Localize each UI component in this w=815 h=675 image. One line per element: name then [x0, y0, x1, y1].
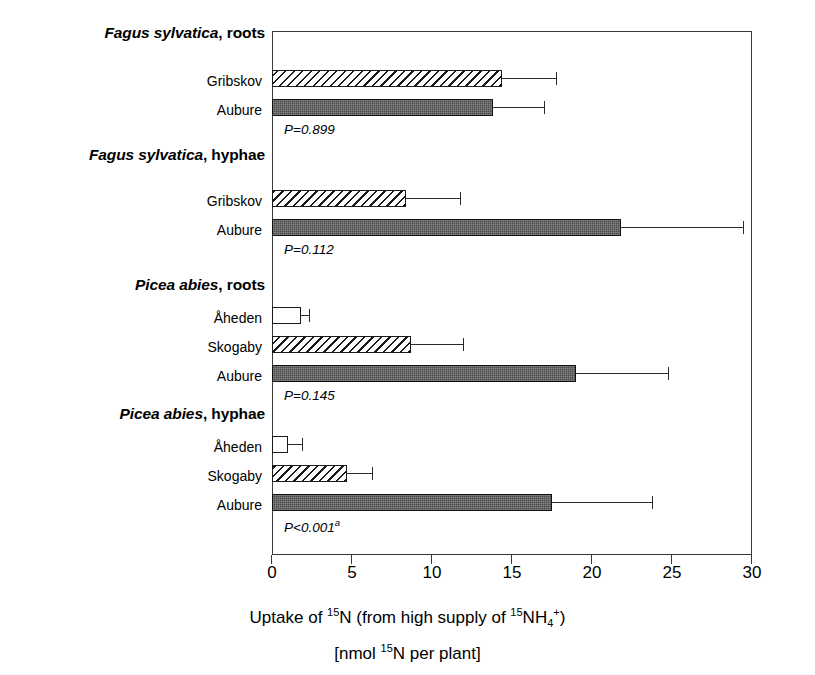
caption-nh-subscript: 4 — [547, 617, 553, 629]
caption-isotope-2: 15 — [510, 606, 522, 618]
group-header-3: Picea abies, hyphae — [15, 405, 265, 423]
p-value-text-g1: P=0.112 — [284, 242, 334, 257]
group-header-part-1: , hyphae — [203, 146, 265, 163]
site-label-g2-b1: Skogaby — [62, 340, 262, 354]
caption-supply-text: N (from high supply of — [339, 608, 510, 627]
x-tick-label-2: 10 — [412, 563, 452, 583]
axis-caption-line-2: [nmol 15N per plant] — [0, 636, 815, 666]
errorcap-g2-b2 — [668, 367, 669, 380]
axis-caption-line-1: Uptake of 15N (from high supply of 15NH4… — [0, 600, 815, 636]
errorbar-g1-b1 — [621, 227, 744, 228]
errorbar-g3-b2 — [552, 502, 653, 503]
bar-g1-b1 — [272, 219, 621, 236]
site-label-g0-b1: Aubure — [62, 103, 262, 117]
group-header-part-2: , roots — [218, 276, 265, 293]
errorbar-g2-b2 — [576, 373, 669, 374]
errorbar-g3-b0 — [288, 444, 303, 445]
p-value-g2: P=0.145 — [284, 388, 335, 403]
x-tick-label-5: 25 — [652, 563, 692, 583]
site-label-g3-b1: Skogaby — [62, 469, 262, 483]
group-header-species-2: Picea abies — [135, 276, 218, 293]
bar-g3-b2 — [272, 494, 552, 511]
p-value-g1: P=0.112 — [284, 242, 334, 257]
errorbar-g2-b1 — [411, 344, 464, 345]
group-header-species-3: Picea abies — [120, 405, 203, 422]
errorcap-g3-b0 — [302, 438, 303, 451]
group-header-1: Fagus sylvatica, hyphae — [15, 146, 265, 164]
x-tick-label-4: 20 — [572, 563, 612, 583]
caption-isotope-1: 15 — [327, 606, 339, 618]
bar-g3-b1 — [272, 465, 347, 482]
errorcap-g2-b1 — [463, 338, 464, 351]
caption-unit-open: [nmol — [334, 644, 380, 663]
caption-isotope-3: 15 — [381, 642, 393, 654]
errorcap-g0-b1 — [544, 101, 545, 114]
errorcap-g3-b1 — [372, 467, 373, 480]
p-value-text-g2: P=0.145 — [284, 388, 335, 403]
x-tick-label-0: 0 — [252, 563, 292, 583]
errorcap-g3-b2 — [652, 496, 653, 509]
site-label-g0-b0: Gribskov — [62, 74, 262, 88]
p-value-g3: P<0.001a — [284, 517, 340, 535]
bar-g2-b0 — [272, 307, 301, 324]
bar-g2-b2 — [272, 365, 576, 382]
x-tick-label-6: 30 — [732, 563, 772, 583]
p-value-g0: P=0.899 — [284, 122, 335, 137]
group-header-species-0: Fagus sylvatica — [104, 24, 218, 41]
bar-g2-b1 — [272, 336, 411, 353]
caption-nh-text: NH — [523, 608, 548, 627]
errorcap-g1-b1 — [743, 221, 744, 234]
errorcap-g2-b0 — [309, 309, 310, 322]
bar-g0-b1 — [272, 99, 493, 116]
site-label-g1-b1: Aubure — [62, 223, 262, 237]
group-header-part-0: , roots — [218, 24, 265, 41]
group-header-species-1: Fagus sylvatica — [89, 146, 203, 163]
bar-g1-b0 — [272, 190, 406, 207]
caption-uptake-text: Uptake of — [250, 608, 328, 627]
group-header-0: Fagus sylvatica, roots — [15, 24, 265, 42]
errorbar-g3-b1 — [347, 473, 373, 474]
site-label-g1-b0: Gribskov — [62, 194, 262, 208]
site-label-g3-b2: Aubure — [62, 498, 262, 512]
bar-g0-b0 — [272, 70, 502, 87]
errorcap-g0-b0 — [556, 72, 557, 85]
x-tick-label-1: 5 — [332, 563, 372, 583]
errorbar-g1-b0 — [406, 198, 461, 199]
p-value-text-g0: P=0.899 — [284, 122, 335, 137]
errorbar-g0-b1 — [493, 107, 545, 108]
site-label-g2-b0: Åheden — [62, 311, 262, 325]
x-tick-label-3: 15 — [492, 563, 532, 583]
caption-unit-text: N per plant] — [393, 644, 481, 663]
site-label-g3-b0: Åheden — [62, 440, 262, 454]
site-label-g2-b2: Aubure — [62, 369, 262, 383]
p-value-text-g3: P<0.001 — [284, 520, 335, 535]
caption-close-paren: ) — [560, 608, 566, 627]
group-header-2: Picea abies, roots — [15, 276, 265, 294]
errorcap-g1-b0 — [460, 192, 461, 205]
figure-bar-chart: Fagus sylvatica, roots Fagus sylvatica, … — [0, 0, 815, 675]
bar-g3-b0 — [272, 436, 288, 453]
axis-caption: Uptake of 15N (from high supply of 15NH4… — [0, 600, 815, 666]
errorbar-g0-b0 — [502, 78, 557, 79]
p-value-superscript-g3: a — [335, 517, 340, 528]
group-header-part-3: , hyphae — [203, 405, 265, 422]
